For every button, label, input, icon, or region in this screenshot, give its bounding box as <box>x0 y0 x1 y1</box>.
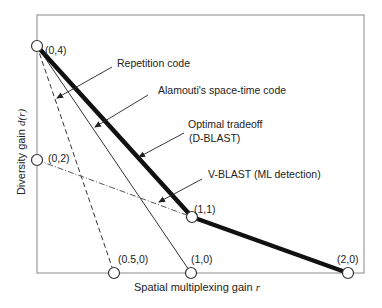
alamouti-arrow <box>95 95 148 127</box>
optimal-arrow <box>139 133 184 157</box>
point-2-0 <box>343 268 354 279</box>
point-1-0 <box>186 268 197 279</box>
y-axis-label: Diversity gain d(r) <box>15 109 28 196</box>
optimal-tradeoff-label: Optimal tradeoff <box>188 118 263 130</box>
label-0-4: (0,4) <box>45 44 67 56</box>
optimal-tradeoff-line <box>37 46 348 273</box>
point-0.5-0 <box>109 268 120 279</box>
tradeoff-diagram: (0,4) (0,2) (0.5,0) (1,0) (1,1) (2,0) Re… <box>0 0 382 308</box>
label-0.5-0: (0.5,0) <box>118 253 148 265</box>
x-axis-label: Spatial multiplexing gain r <box>134 281 261 293</box>
label-2-0: (2,0) <box>337 253 359 265</box>
plot-frame <box>37 15 364 273</box>
dblast-label: (D-BLAST) <box>189 132 240 144</box>
repetition-code-label: Repetition code <box>117 57 190 69</box>
label-1-1: (1,1) <box>194 203 216 215</box>
alamouti-label: Alamouti's space-time code <box>158 84 286 96</box>
repetition-arrow <box>57 67 112 98</box>
point-0-2 <box>32 155 43 166</box>
vblast-label: V-BLAST (ML detection) <box>208 168 321 180</box>
label-1-0: (1,0) <box>191 253 213 265</box>
label-0-2: (0,2) <box>48 152 70 164</box>
point-0-4 <box>32 41 43 52</box>
